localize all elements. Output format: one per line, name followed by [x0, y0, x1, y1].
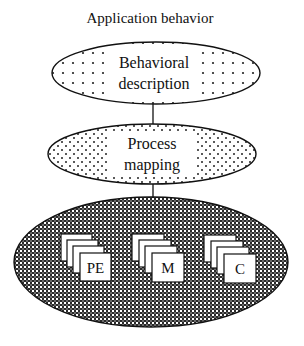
c-label: C: [235, 261, 245, 277]
architecture-layer: PE M C: [14, 197, 288, 327]
layered-diagram: Application behavior Behavioral descript…: [0, 0, 304, 346]
m-label: M: [161, 260, 174, 276]
behavioral-description-label-line2: description: [118, 75, 189, 93]
diagram-title: Application behavior: [86, 10, 213, 26]
process-mapping-label-line1: Process: [128, 135, 177, 152]
process-mapping-layer: Process mapping: [48, 124, 256, 184]
pe-label: PE: [87, 260, 105, 276]
process-mapping-label-line2: mapping: [124, 156, 180, 174]
behavioral-description-layer: Behavioral description: [52, 42, 260, 104]
behavioral-description-label-line1: Behavioral: [119, 54, 190, 71]
